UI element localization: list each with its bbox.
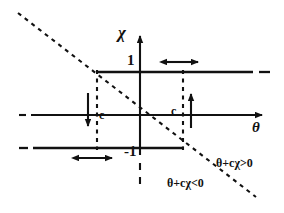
theta-axis-label: θ	[252, 120, 260, 135]
right-threshold-label: c	[171, 105, 176, 117]
hysteresis-diagram: χ θ 1 -1 -c c θ+cχ>0 θ+cχ<0	[0, 0, 284, 213]
left-threshold-label: -c	[95, 109, 104, 121]
upper-level-tick-label: 1	[127, 53, 135, 68]
region-label-negative: θ+cχ<0	[167, 177, 204, 189]
lower-level-tick-label: -1	[124, 144, 137, 159]
chi-axis-label: χ	[118, 24, 126, 41]
branches-group	[19, 72, 270, 148]
region-label-positive: θ+cχ>0	[216, 157, 253, 169]
diagram-canvas	[0, 0, 284, 213]
